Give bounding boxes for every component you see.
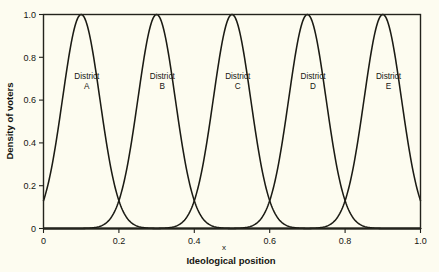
y-tick-label: 0.2 <box>23 181 36 191</box>
curve-label-letter-d: D <box>310 82 316 91</box>
y-tick-label: 0.8 <box>23 53 36 63</box>
curve-label-a: District <box>74 72 100 81</box>
curve-label-c: District <box>225 72 251 81</box>
x-tick-label: 0.4 <box>188 236 201 246</box>
x-variable-label: x <box>222 243 226 252</box>
y-axis-title: Density of voters <box>4 82 15 159</box>
chart-figure: 00.20.40.60.81.0 00.20.40.60.81.0 Distri… <box>0 0 439 272</box>
curve-label-letter-b: B <box>160 82 166 91</box>
y-tick-label: 1.0 <box>23 10 36 20</box>
curve-label-letter-c: C <box>235 82 241 91</box>
y-tick-label: 0 <box>31 224 36 234</box>
curve-label-d: District <box>301 72 327 81</box>
x-tick-label: 0.6 <box>263 236 276 246</box>
x-tick-label: 0 <box>41 236 46 246</box>
y-tick-label: 0.6 <box>23 95 36 105</box>
y-tick-label: 0.4 <box>23 138 36 148</box>
curve-label-b: District <box>150 72 176 81</box>
curve-label-letter-a: A <box>84 82 90 91</box>
x-axis-title: Ideological position <box>186 255 275 266</box>
x-tick-label: 1.0 <box>414 236 427 246</box>
x-tick-label: 0.8 <box>339 236 352 246</box>
curve-label-letter-e: E <box>386 82 392 91</box>
curve-label-e: District <box>376 72 402 81</box>
x-tick-label: 0.2 <box>113 236 126 246</box>
